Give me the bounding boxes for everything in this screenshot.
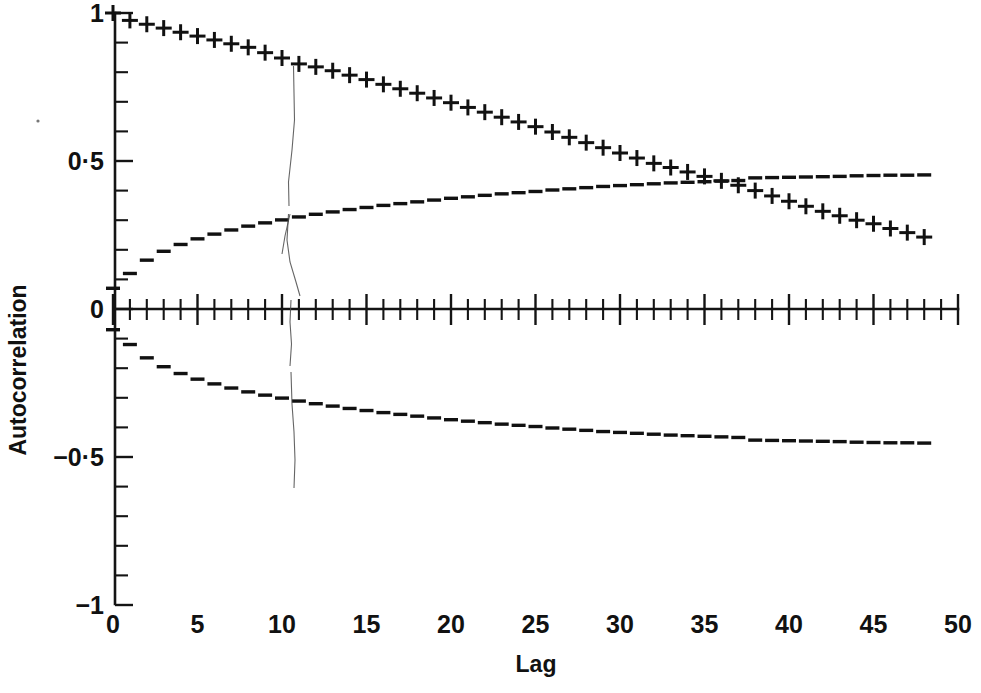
x-tick-label: 35 — [691, 610, 719, 638]
x-tick-label: 30 — [606, 610, 634, 638]
data-point-plus — [375, 76, 391, 92]
data-point-plus — [122, 12, 138, 28]
data-point-plus — [173, 24, 189, 40]
scan-fold-artifact-icon — [282, 66, 300, 488]
data-point-plus — [477, 104, 493, 120]
y-axis-tick-labels: 10·50−0·5−1 — [53, 0, 104, 619]
data-point-plus — [359, 72, 375, 88]
data-point-plus — [849, 212, 865, 228]
x-tick-label: 45 — [860, 610, 888, 638]
data-point-plus — [646, 155, 662, 171]
data-point-plus — [494, 109, 510, 125]
y-tick-label: 0·5 — [68, 147, 104, 175]
data-point-plus — [916, 229, 932, 245]
data-point-plus — [342, 67, 358, 83]
data-point-plus — [544, 124, 560, 140]
y-tick-label: −1 — [75, 591, 104, 619]
series-lower-confidence-bound — [106, 330, 931, 443]
y-tick-label: 0 — [90, 295, 104, 323]
data-point-plus — [105, 5, 121, 21]
series-upper-confidence-bound — [106, 175, 931, 288]
x-axis-tick-labels: 05101520253035404550 — [106, 610, 972, 638]
data-point-plus — [781, 193, 797, 209]
data-point-plus — [747, 183, 763, 199]
data-point-plus — [206, 32, 222, 48]
data-point-plus — [713, 173, 729, 189]
data-point-plus — [443, 95, 459, 111]
x-tick-label: 15 — [353, 610, 381, 638]
x-tick-label: 50 — [944, 610, 972, 638]
data-point-plus — [392, 81, 408, 97]
data-point-plus — [680, 164, 696, 180]
data-point-plus — [798, 198, 814, 214]
x-tick-label: 25 — [522, 610, 550, 638]
data-point-plus — [460, 99, 476, 115]
data-point-plus — [426, 90, 442, 106]
x-tick-label: 40 — [775, 610, 803, 638]
data-point-plus — [308, 59, 324, 75]
x-tick-label: 0 — [106, 610, 120, 638]
data-point-plus — [528, 119, 544, 135]
data-point-plus — [240, 39, 256, 55]
data-point-plus — [866, 216, 882, 232]
autocorrelation-figure: 10·50−0·5−1 05101520253035404550 Lag Aut… — [0, 0, 981, 693]
data-point-plus — [815, 203, 831, 219]
data-point-plus — [612, 145, 628, 161]
data-point-plus — [139, 16, 155, 32]
data-point-plus — [223, 36, 239, 52]
data-point-plus — [409, 85, 425, 101]
data-point-plus — [578, 135, 594, 151]
series-autocorrelation — [105, 5, 932, 245]
data-point-plus — [764, 188, 780, 204]
data-point-plus — [832, 208, 848, 224]
y-tick-label: −0·5 — [53, 443, 104, 471]
data-point-plus — [882, 220, 898, 236]
data-point-plus — [663, 160, 679, 176]
data-point-plus — [899, 225, 915, 241]
acf-plot-svg: 10·50−0·5−1 05101520253035404550 Lag Aut… — [0, 0, 981, 693]
y-axis-title: Autocorrelation — [5, 284, 31, 455]
data-point-plus — [156, 20, 172, 36]
data-point-plus — [629, 150, 645, 166]
x-tick-label: 20 — [437, 610, 465, 638]
y-tick-label: 1 — [90, 0, 104, 27]
speck-artifact-icon — [36, 119, 39, 122]
data-point-plus — [511, 114, 527, 130]
x-tick-label: 5 — [191, 610, 205, 638]
data-point-plus — [325, 63, 341, 79]
data-point-plus — [257, 45, 273, 61]
x-axis-title: Lag — [516, 651, 557, 677]
data-point-plus — [561, 129, 577, 145]
x-tick-label: 10 — [268, 610, 296, 638]
data-point-plus — [274, 50, 290, 66]
data-point-plus — [595, 140, 611, 156]
data-point-plus — [190, 28, 206, 44]
